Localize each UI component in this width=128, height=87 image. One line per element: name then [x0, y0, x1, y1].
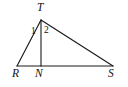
- vertex-label-s: S: [108, 68, 114, 80]
- vertex-label-t: T: [37, 2, 43, 14]
- segment-TS: [41, 20, 113, 66]
- angle-label-1: 1: [31, 27, 36, 37]
- angle-label-2: 2: [44, 26, 49, 36]
- vertex-label-n: N: [35, 68, 43, 80]
- vertex-label-r: R: [12, 68, 19, 80]
- geometry-figure: T R N S 1 2: [0, 0, 128, 87]
- segment-RT: [17, 20, 41, 66]
